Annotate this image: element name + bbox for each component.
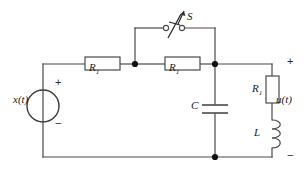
resistor-r1-right-label: R1: [252, 83, 262, 97]
switch-s-label: S: [187, 11, 193, 22]
output-plus-sign: +: [287, 56, 293, 67]
source-minus-sign: −: [55, 118, 61, 129]
switch-blade[interactable]: [168, 14, 181, 38]
output-minus-sign: −: [287, 150, 293, 161]
source-plus-sign: +: [55, 77, 61, 88]
inductor-l-coils: [272, 120, 280, 148]
output-voltage-label: u(t): [276, 94, 292, 105]
node-bottom: [212, 154, 218, 160]
resistor-r1-right-subscript: 1: [259, 89, 263, 97]
resistor-r1-left-subscript: 1: [96, 68, 100, 76]
switch-terminal-right[interactable]: [179, 25, 184, 30]
resistor-r1-middle-label: R1: [169, 62, 179, 76]
switch-terminal-left[interactable]: [163, 25, 168, 30]
resistor-r1-left-label: R1: [89, 62, 99, 76]
inductor-l-label: L: [254, 127, 260, 138]
circuit-diagram: R1 R1 R1 C L S x(t) u(t) + − + −: [0, 0, 306, 176]
switch-arrow-head: [180, 11, 185, 16]
capacitor-c-plates: [202, 105, 228, 113]
capacitor-c-label: C: [191, 100, 198, 111]
node-right-top: [212, 61, 218, 67]
resistor-r1-middle-subscript: 1: [176, 68, 180, 76]
source-label: x(t): [13, 94, 28, 105]
node-switch-left: [132, 61, 138, 67]
